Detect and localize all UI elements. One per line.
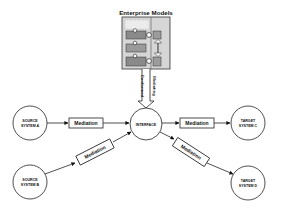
svg-text:Mediation: Mediation (185, 120, 208, 126)
svg-text:TARGET: TARGET (241, 179, 256, 183)
model-bar (126, 57, 146, 66)
mediation-d-link: Mediation (160, 132, 233, 174)
mediation-b-link: Mediation (45, 132, 131, 174)
svg-text:SOURCE: SOURCE (22, 178, 38, 182)
svg-text:SOURCE: SOURCE (22, 119, 38, 123)
enterprise-models-title: Enterprise Models (119, 9, 173, 16)
target-system-d-node: TARGET SYSTEM D (231, 166, 265, 200)
conformed-label: Conformed (140, 75, 145, 98)
connector-icon (133, 54, 137, 58)
model-bar (126, 44, 146, 52)
svg-text:SYSTEM C: SYSTEM C (239, 124, 258, 128)
svg-text:SYSTEM D: SYSTEM D (239, 184, 258, 188)
target-system-c-node: TARGET SYSTEM C (231, 106, 265, 140)
svg-text:TARGET: TARGET (241, 119, 256, 123)
interface-node: INTERFACE (130, 108, 162, 140)
source-system-a-node: SOURCE SYSTEM A (13, 106, 47, 140)
diagram-canvas: Enterprise Models Conformed Mediating (0, 0, 285, 211)
connector-icon (133, 29, 137, 33)
svg-text:SYSTEM B: SYSTEM B (21, 183, 40, 187)
connector-icon (133, 41, 137, 45)
mediating-label: Mediating (152, 76, 157, 96)
connector-icon (147, 59, 152, 64)
svg-text:Mediation: Mediation (74, 120, 97, 126)
svg-text:SYSTEM A: SYSTEM A (21, 124, 40, 128)
interface-label: INTERFACE (136, 123, 157, 127)
enterprise-models-box (122, 17, 170, 69)
mediation-c-link: Mediation (162, 118, 230, 128)
connector-icon (147, 33, 152, 38)
source-system-b-node: SOURCE SYSTEM B (13, 165, 47, 199)
mediation-a-link: Mediation (47, 118, 129, 128)
vertical-link-arrow: Conformed Mediating (138, 69, 157, 108)
